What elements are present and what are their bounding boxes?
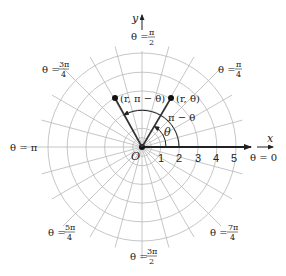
radial-line: [63, 68, 142, 147]
radial-line: [142, 68, 221, 147]
svg-text:4: 4: [67, 233, 72, 242]
point-r-pi-minus-theta: [112, 95, 118, 101]
svg-text:θ =: θ =: [131, 31, 149, 42]
radial-line: [142, 120, 243, 147]
svg-text:4: 4: [61, 70, 66, 79]
svg-text:1: 1: [158, 152, 164, 164]
svg-text:π: π: [236, 60, 241, 69]
svg-text:5π: 5π: [65, 223, 75, 232]
radius-tick-labels: 1 2 3 4 5: [158, 152, 237, 164]
svg-text:π: π: [149, 28, 154, 37]
svg-text:2: 2: [149, 38, 154, 47]
arc-theta-label: θ: [164, 126, 171, 139]
angle-label-zero: θ = 0: [250, 152, 277, 163]
angle-label-pi-over-2: θ = π 2: [131, 28, 155, 47]
svg-text:3π: 3π: [59, 60, 69, 69]
svg-text:θ =: θ =: [130, 251, 148, 262]
radial-line: [142, 147, 169, 248]
svg-text:2: 2: [149, 257, 154, 266]
radial-line: [42, 147, 143, 174]
radial-line: [142, 147, 194, 237]
svg-text:4: 4: [230, 233, 235, 242]
angle-label-3pi-over-4: θ = 3π 4: [42, 60, 69, 79]
arc-pi-minus-theta-label: π − θ: [168, 112, 195, 123]
svg-text:θ =: θ =: [48, 227, 66, 238]
x-axis-label: x: [267, 132, 274, 145]
angle-label-5pi-over-4: θ = 5π 4: [48, 223, 75, 242]
angle-label-3pi-over-2: θ = 3π 2: [130, 247, 157, 266]
polar-diagram: y x 1 2 3 4 5 O (r, θ) (r, π − θ) θ π − …: [0, 0, 286, 276]
angle-label-7pi-over-4: θ = 7π 4: [210, 223, 238, 242]
svg-text:θ =: θ =: [210, 227, 228, 238]
radial-line: [42, 120, 143, 147]
svg-text:5: 5: [231, 152, 237, 164]
origin-label: O: [131, 150, 140, 163]
svg-text:3: 3: [195, 152, 201, 164]
angle-label-pi-over-4: θ = π 4: [218, 60, 242, 79]
svg-text:3π: 3π: [147, 247, 157, 256]
svg-text:θ =: θ =: [42, 64, 60, 75]
label-r-pi-minus-theta: (r, π − θ): [120, 93, 165, 104]
svg-text:θ =: θ =: [218, 64, 236, 75]
svg-text:4: 4: [213, 152, 219, 164]
angle-label-pi: θ = π: [10, 142, 38, 153]
label-r-theta: (r, θ): [176, 93, 200, 104]
y-axis-label: y: [131, 12, 139, 25]
radial-line: [52, 147, 142, 199]
svg-text:2: 2: [176, 152, 182, 164]
point-r-theta: [168, 95, 174, 101]
svg-text:4: 4: [236, 70, 241, 79]
svg-text:7π: 7π: [228, 223, 238, 232]
